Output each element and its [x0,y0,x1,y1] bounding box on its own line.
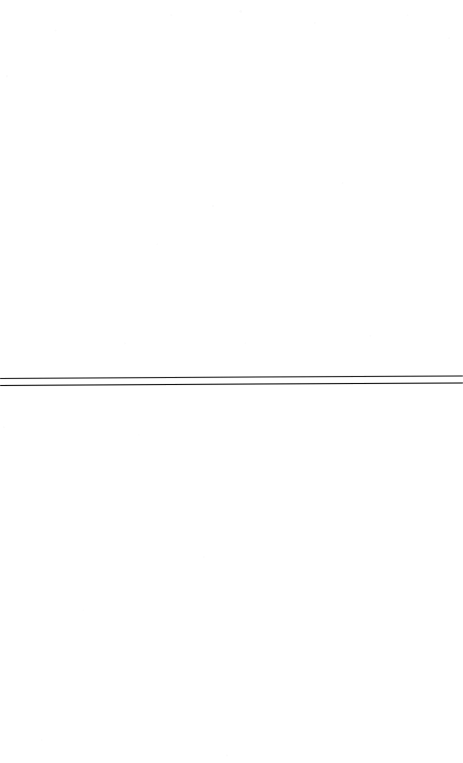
paper-grain-texture [0,0,463,763]
upper-rule-stroke [0,375,463,379]
ruled-line-group [0,369,463,388]
upper-rule-halo [0,374,463,380]
lower-rule-line [0,382,463,385]
lower-rule-halo [0,381,463,387]
scanned-page [0,0,463,763]
lower-rule-stroke [0,382,463,386]
upper-rule-line [0,375,463,378]
